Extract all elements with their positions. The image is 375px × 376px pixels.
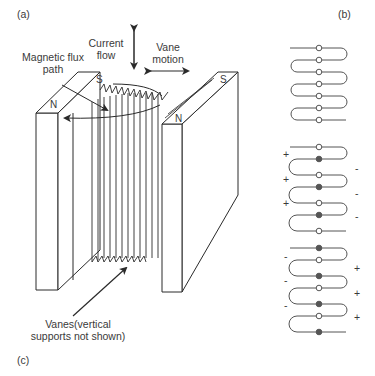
vanes-line1: Vanes(vertical: [28, 318, 128, 330]
pole-right-back: S: [220, 74, 227, 86]
vanes-label: Vanes(vertical supports not shown): [28, 318, 128, 342]
sign-bot-left-2: -: [284, 274, 288, 286]
vanes-pointer-arrow: [73, 268, 126, 316]
pole-left-front: N: [50, 99, 57, 111]
pole-left-back: S: [96, 74, 103, 86]
sign-mid-left-2: +: [283, 173, 289, 185]
vanes: [92, 84, 168, 262]
sign-mid-right-2: -: [355, 187, 359, 199]
sign-mid-left-1: +: [283, 148, 289, 160]
sign-mid-right-1: -: [355, 162, 359, 174]
current-flow-line1: Current: [86, 37, 126, 49]
right-magnet: [162, 72, 238, 292]
left-magnet: [36, 72, 100, 290]
magnetic-flux-line2: path: [14, 63, 92, 75]
sign-bot-right-3: +: [354, 311, 360, 323]
vane-motion-line2: motion: [146, 53, 190, 65]
serpentine-bottom: [289, 245, 347, 335]
sign-bot-left-3: -: [284, 299, 288, 311]
panel-label-c: (c): [17, 354, 29, 366]
panel-label-b: (b): [338, 8, 351, 20]
serpentine-middle: [289, 144, 347, 234]
vanes-line2: supports not shown): [28, 330, 128, 342]
serpentine-top: [290, 45, 347, 123]
magnetic-flux-label: Magnetic flux path: [14, 51, 92, 75]
sign-mid-right-3: -: [355, 210, 359, 222]
sign-bot-right-2: +: [354, 287, 360, 299]
sign-bot-right-1: +: [354, 262, 360, 274]
current-flow-label: Current flow: [86, 37, 126, 61]
magnetic-flux-line1: Magnetic flux: [14, 51, 92, 63]
vane-motion-line1: Vane: [146, 41, 190, 53]
pole-right-front: N: [175, 113, 182, 125]
panel-label-a: (a): [17, 8, 30, 20]
sign-mid-left-3: +: [283, 197, 289, 209]
current-flow-line2: flow: [86, 49, 126, 61]
vane-motion-label: Vane motion: [146, 41, 190, 65]
sign-bot-left-1: -: [284, 250, 288, 262]
